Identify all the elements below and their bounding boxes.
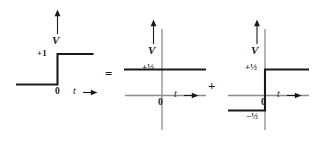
t-axis-arrow-icon	[287, 93, 302, 99]
panel3-v-axis-label: V	[251, 45, 258, 56]
v-axis-arrow-icon	[151, 20, 157, 45]
trace-signum	[228, 70, 309, 111]
panel-dc-level	[124, 20, 206, 131]
figure-canvas	[0, 0, 323, 144]
panel2-v-axis-label: V	[148, 45, 155, 56]
panel2-level-label-plus-half: +½	[142, 63, 154, 72]
panel-unit-step	[16, 10, 98, 96]
panel2-t-axis-label: t	[174, 89, 177, 99]
v-axis-arrow-icon	[254, 20, 260, 45]
t-axis-arrow-icon	[83, 90, 98, 96]
panel2-origin-label: 0	[158, 98, 163, 108]
t-axis-arrow-icon	[184, 93, 199, 99]
panel3-origin-label: 0	[261, 98, 266, 108]
panel1-origin-label: 0	[55, 87, 60, 97]
operator-equals: =	[105, 67, 112, 80]
panel3-t-axis-label: t	[277, 89, 280, 99]
v-axis-arrow-icon	[55, 10, 61, 35]
panel-signum	[228, 20, 309, 131]
operator-plus: +	[208, 79, 215, 92]
panel1-t-axis-label: t	[73, 86, 76, 96]
panel1-v-axis-label: V	[52, 35, 59, 46]
panel1-level-label-plus-one: +1	[37, 49, 47, 58]
panel3-level-label-minus-half: −½	[246, 112, 258, 121]
trace-unit-step	[16, 54, 94, 85]
waveform-decomposition-figure: V +1 0 t = V +½ 0 t + V +½ 0 t −½	[0, 0, 323, 144]
panel3-level-label-plus-half: +½	[245, 63, 257, 72]
